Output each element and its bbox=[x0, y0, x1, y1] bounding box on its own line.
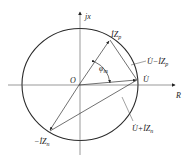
label-phi-m: φm bbox=[99, 64, 108, 74]
label-neg-IZn: −İZn bbox=[34, 137, 50, 147]
vector-neg-IZn bbox=[50, 85, 79, 130]
label-real-axis: R bbox=[175, 91, 181, 100]
label-U: U̇ bbox=[143, 75, 150, 84]
phasor-diagram: jx R O İZp U̇ −İZn U̇−İZp U̇+İZn φm bbox=[0, 0, 192, 160]
label-U-minus-IZp: U̇−İZp bbox=[147, 57, 168, 67]
label-imag-axis: jx bbox=[84, 12, 91, 21]
vector-U bbox=[79, 80, 136, 85]
vector-IZp bbox=[79, 41, 109, 85]
label-origin: O bbox=[70, 76, 76, 85]
vector-U-plus-IZn bbox=[50, 80, 137, 131]
label-U-plus-IZn: U̇+İZn bbox=[132, 124, 153, 134]
label-IZp: İZp bbox=[110, 30, 121, 40]
